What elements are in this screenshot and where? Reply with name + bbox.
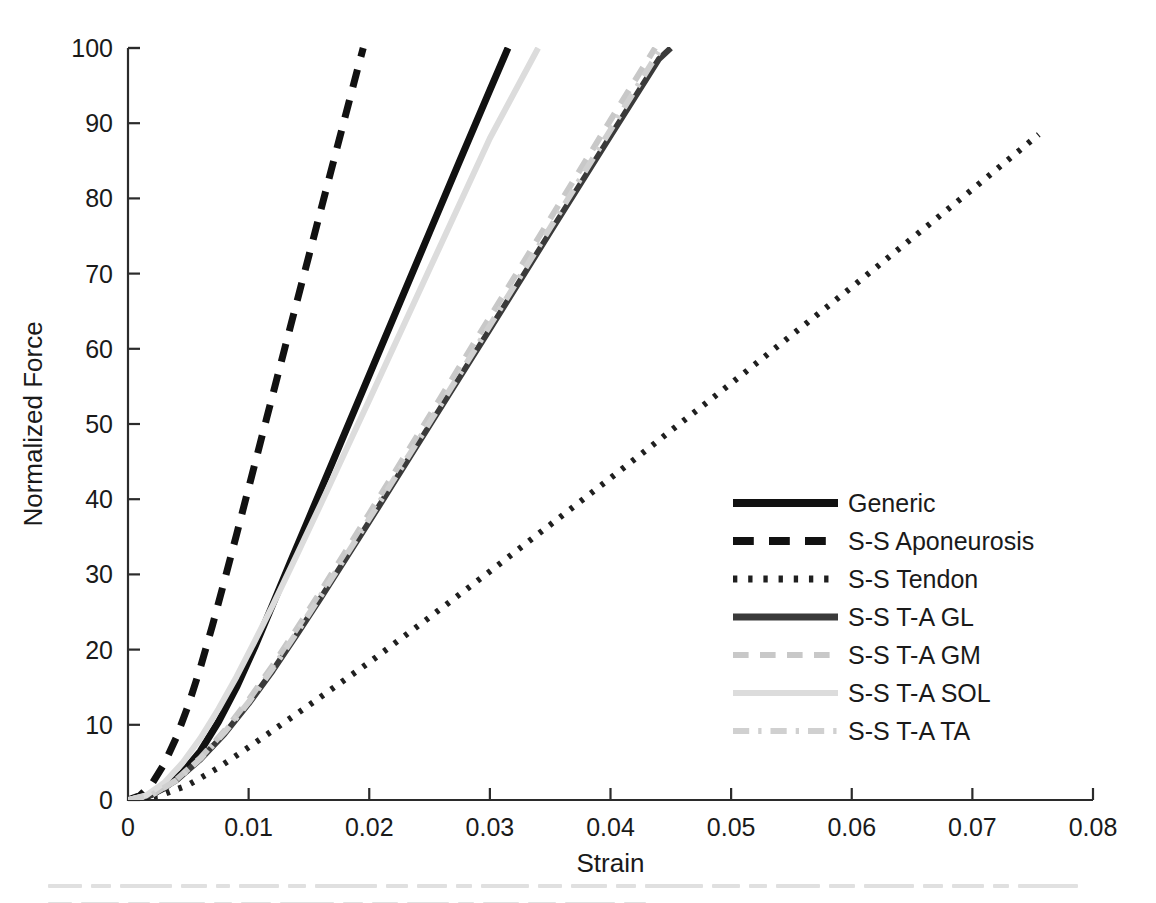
x-tick-label: 0.04 bbox=[586, 813, 635, 841]
y-tick-label: 10 bbox=[85, 711, 113, 739]
y-tick-label: 50 bbox=[85, 410, 113, 438]
y-tick-label: 20 bbox=[85, 636, 113, 664]
y-axis-title: Normalized Force bbox=[18, 321, 48, 526]
legend-label: S-S T-A SOL bbox=[848, 679, 991, 707]
x-tick-label: 0 bbox=[121, 813, 135, 841]
x-tick-label: 0.01 bbox=[224, 813, 273, 841]
x-tick-label: 0.05 bbox=[707, 813, 756, 841]
y-tick-label: 40 bbox=[85, 485, 113, 513]
series-line bbox=[128, 48, 655, 800]
legend-label: S-S Tendon bbox=[848, 565, 978, 593]
x-tick-label: 0.08 bbox=[1069, 813, 1118, 841]
x-tick-label: 0.02 bbox=[345, 813, 394, 841]
legend-label: S-S T-A GM bbox=[848, 641, 981, 669]
legend-label: S-S T-A GL bbox=[848, 603, 974, 631]
y-tick-label: 90 bbox=[85, 109, 113, 137]
legend-label: Generic bbox=[848, 489, 936, 517]
figure-container: 010203040506070809010000.010.020.030.040… bbox=[0, 0, 1156, 903]
x-axis-title: Strain bbox=[577, 848, 645, 878]
y-tick-label: 0 bbox=[99, 786, 113, 814]
x-tick-label: 0.03 bbox=[466, 813, 515, 841]
y-tick-label: 60 bbox=[85, 335, 113, 363]
x-tick-label: 0.06 bbox=[827, 813, 876, 841]
legend-label: S-S T-A TA bbox=[848, 717, 971, 745]
series-line bbox=[128, 48, 508, 800]
y-tick-label: 30 bbox=[85, 560, 113, 588]
series-line bbox=[128, 48, 363, 800]
legend-label: S-S Aponeurosis bbox=[848, 527, 1034, 555]
y-tick-label: 80 bbox=[85, 184, 113, 212]
chart-legend: GenericS-S AponeurosisS-S TendonS-S T-A … bbox=[733, 489, 1034, 745]
y-tick-label: 70 bbox=[85, 260, 113, 288]
stress-strain-chart: 010203040506070809010000.010.020.030.040… bbox=[0, 0, 1156, 903]
y-tick-label: 100 bbox=[71, 34, 113, 62]
x-tick-label: 0.07 bbox=[948, 813, 997, 841]
